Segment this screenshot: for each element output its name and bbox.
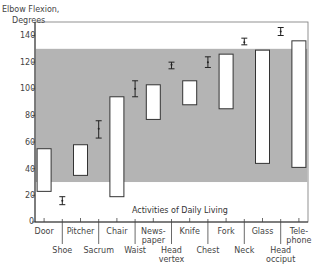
range-bar-fork bbox=[219, 54, 233, 109]
x-axis-subtitle: Activities of Daily Living bbox=[132, 206, 228, 215]
range-bar-telephone bbox=[292, 41, 306, 168]
x-label-line1: Tele- bbox=[279, 227, 319, 236]
y-axis-title: Elbow Flexion, Degrees bbox=[2, 4, 59, 26]
x-label-neck: Neck bbox=[224, 246, 264, 255]
range-bar-chair bbox=[110, 97, 124, 197]
y-tick-120: 120 bbox=[20, 58, 35, 68]
x-label-pitcher: Pitcher bbox=[61, 227, 101, 236]
y-tick-100: 100 bbox=[20, 84, 35, 94]
y-axis-title-line2: Degrees bbox=[2, 15, 59, 26]
x-label-shoe: Shoe bbox=[42, 246, 82, 255]
x-label-door: Door bbox=[24, 227, 64, 236]
error-bar-waist-mean bbox=[134, 88, 136, 90]
y-tick-40: 40 bbox=[25, 165, 35, 175]
x-label-line1: Chest bbox=[188, 246, 228, 255]
x-label-chest: Chest bbox=[188, 246, 228, 255]
x-label-line1: Knife bbox=[170, 227, 210, 236]
error-bar-neck-mean bbox=[243, 41, 245, 43]
x-label-line1: Chair bbox=[97, 227, 137, 236]
x-label-line1: Fork bbox=[206, 227, 246, 236]
range-bar-knife bbox=[183, 81, 197, 105]
x-label-line1: Door bbox=[24, 227, 64, 236]
x-label-waist: Waist bbox=[115, 246, 155, 255]
x-label-line2: phone bbox=[279, 236, 319, 245]
x-label-line2: vertex bbox=[152, 255, 192, 264]
x-label-line1: Head bbox=[152, 246, 192, 255]
x-label-line1: Shoe bbox=[42, 246, 82, 255]
y-tick-60: 60 bbox=[25, 138, 35, 148]
x-label-fork: Fork bbox=[206, 227, 246, 236]
error-bar-shoe-mean bbox=[61, 200, 63, 202]
y-tick-20: 20 bbox=[25, 191, 35, 201]
x-label-telephone: Tele-phone bbox=[279, 227, 319, 245]
error-bar-head-occiput-mean bbox=[280, 31, 282, 33]
y-tick-80: 80 bbox=[25, 111, 35, 121]
x-label-chair: Chair bbox=[97, 227, 137, 236]
x-label-line1: News- bbox=[133, 227, 173, 236]
y-axis-title-line1: Elbow Flexion, bbox=[2, 4, 59, 15]
x-label-headocciput: Headocciput bbox=[261, 246, 301, 264]
x-label-line2: paper bbox=[133, 236, 173, 245]
error-bar-head-vertex-mean bbox=[171, 64, 173, 66]
range-bar-pitcher bbox=[74, 145, 88, 176]
x-label-line1: Sacrum bbox=[79, 246, 119, 255]
range-bar-glass bbox=[256, 50, 270, 163]
x-label-knife: Knife bbox=[170, 227, 210, 236]
x-label-line2: occiput bbox=[261, 255, 301, 264]
x-label-line1: Pitcher bbox=[61, 227, 101, 236]
x-label-line1: Glass bbox=[243, 227, 283, 236]
error-bar-sacrum-mean bbox=[98, 128, 100, 130]
x-label-line1: Waist bbox=[115, 246, 155, 255]
x-label-newspaper: News-paper bbox=[133, 227, 173, 245]
range-bar-newspaper bbox=[146, 85, 160, 120]
error-bar-chest-mean bbox=[207, 61, 209, 63]
x-label-line1: Neck bbox=[224, 246, 264, 255]
x-label-headvertex: Headvertex bbox=[152, 246, 192, 264]
x-label-sacrum: Sacrum bbox=[79, 246, 119, 255]
y-tick-0: 0 bbox=[29, 217, 34, 227]
x-label-glass: Glass bbox=[243, 227, 283, 236]
y-tick-140: 140 bbox=[20, 31, 35, 41]
range-bar-door bbox=[37, 149, 51, 192]
x-label-line1: Head bbox=[261, 246, 301, 255]
